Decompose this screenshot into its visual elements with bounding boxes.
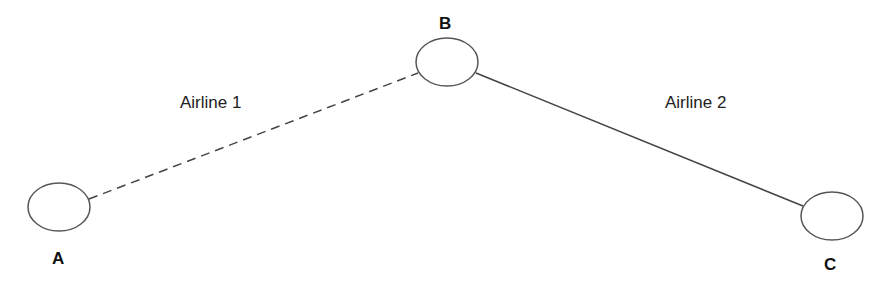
node-b-label: B — [439, 14, 451, 33]
edge-airline-2 — [476, 73, 803, 206]
edge-label-airline-1: Airline 1 — [180, 93, 241, 112]
node-c — [801, 192, 863, 240]
node-a — [28, 183, 90, 231]
node-c-label: C — [824, 255, 836, 274]
node-b — [416, 38, 478, 86]
edge-label-airline-2: Airline 2 — [665, 93, 726, 112]
edge-airline-1 — [89, 73, 418, 199]
route-diagram: A B C Airline 1 Airline 2 — [0, 0, 887, 283]
node-a-label: A — [52, 249, 64, 268]
